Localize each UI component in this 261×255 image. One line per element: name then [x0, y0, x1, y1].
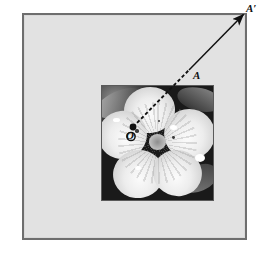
petal-speck: [135, 129, 138, 132]
label-a: A: [193, 70, 200, 81]
flower-photograph: [101, 85, 214, 201]
label-o: O: [126, 130, 134, 141]
outer-frame-panel: [22, 13, 247, 240]
petal-speck: [172, 136, 175, 139]
figure-canvas: A′ A O: [0, 0, 261, 255]
label-a-prime: A′: [246, 3, 256, 14]
flower-center: [149, 134, 167, 150]
